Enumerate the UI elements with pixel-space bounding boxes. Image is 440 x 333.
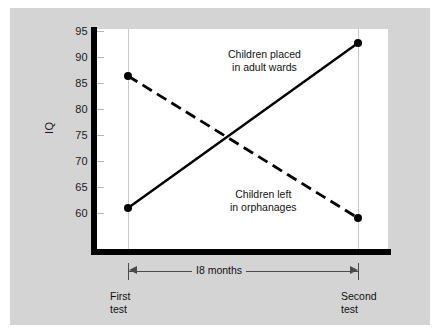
series-label-adult-wards: Children placed in adult wards (228, 48, 301, 74)
data-point-adult-wards-first (124, 204, 132, 212)
series-lines (0, 0, 440, 333)
arrow-right-icon (350, 266, 358, 274)
series-label-orphanages: Children left in orphanages (230, 188, 297, 214)
data-point-orphanages-second (354, 214, 362, 222)
x-tick-label-second-test: Second test (341, 290, 377, 316)
arrow-left-icon (129, 266, 137, 274)
x-tick-label-first-test: First test (110, 290, 130, 316)
chart-figure: 95 90 85 80 75 70 65 60 IQ Children plac… (0, 0, 440, 333)
duration-span-tick-right (358, 263, 359, 280)
data-point-adult-wards-second (354, 39, 362, 47)
duration-span-label: I8 months (192, 264, 246, 276)
data-point-orphanages-first (124, 72, 132, 80)
